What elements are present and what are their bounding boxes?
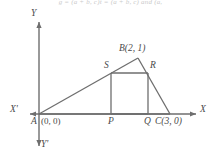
point-label-S: S — [104, 61, 109, 71]
axis-label-y-positive: Y — [31, 9, 36, 19]
point-label-A: A — [31, 117, 37, 127]
axis-label-y-negative: Y' — [41, 140, 48, 150]
x-axis-positive-arrowhead — [190, 111, 196, 116]
point-coord-A: (0, 0) — [41, 117, 61, 126]
axis-label-x-negative: X' — [10, 105, 18, 115]
point-label-P: P — [108, 117, 114, 127]
coordinate-geometry-figure: g = (a + b, c)t = (a + b, c) and (a, X' — [0, 0, 221, 157]
point-label-R: R — [150, 61, 156, 71]
point-label-C: C(3, 0) — [155, 117, 182, 127]
axis-label-x-positive: X — [200, 105, 206, 115]
triangle-side-AB — [39, 58, 138, 114]
y-axis-positive-arrowhead — [36, 22, 41, 28]
point-label-B: B(2, 1) — [119, 44, 145, 54]
point-label-Q: Q — [144, 117, 151, 127]
figure-canvas — [0, 0, 221, 157]
